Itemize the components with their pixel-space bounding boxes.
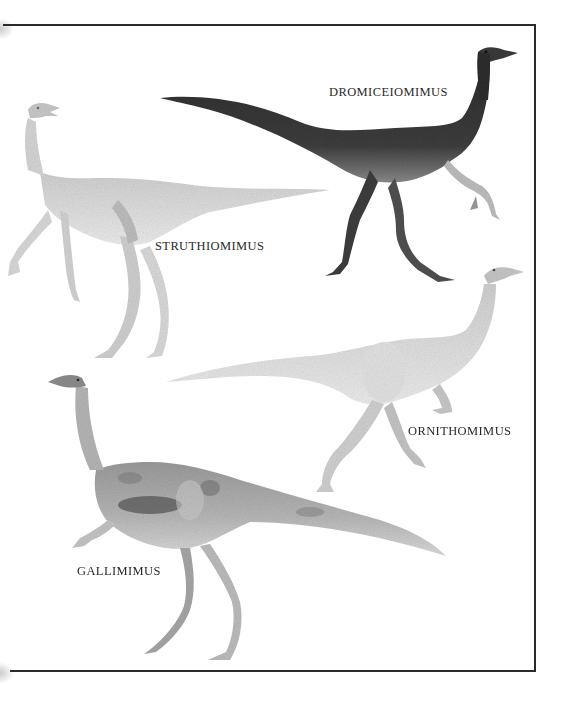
label-ornithomimus: ORNITHOMIMUS	[408, 425, 511, 438]
dinosaur-illustrations	[0, 0, 573, 702]
struthiomimus-figure	[8, 103, 330, 358]
gallimimus-figure	[48, 375, 446, 660]
label-gallimimus: GALLIMIMUS	[77, 565, 161, 578]
label-struthiomimus: STRUTHIOMIMUS	[155, 240, 264, 253]
label-dromiceiomimus: DROMICEIOMIMUS	[329, 86, 448, 99]
ornithomimus-figure	[166, 267, 524, 492]
illustration-page: DROMICEIOMIMUS STRUTHIOMIMUS ORNITHOMIMU…	[0, 0, 573, 702]
